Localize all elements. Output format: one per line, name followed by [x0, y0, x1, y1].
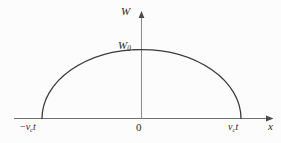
x-axis-label: x	[268, 121, 273, 132]
origin-label: 0	[136, 122, 142, 133]
figure-container: W W0 0 x −vct vct	[0, 0, 281, 143]
y-axis-label: W	[121, 6, 130, 17]
w0-base: W	[118, 39, 127, 51]
left-tick-tail: t	[33, 121, 36, 132]
left-tick-subscript: c	[30, 126, 33, 133]
x-tick-label-right: vct	[228, 122, 238, 132]
right-tick-subscript: c	[232, 126, 235, 133]
x-tick-label-left: −vct	[20, 122, 36, 132]
y-axis-arrow-icon	[139, 11, 145, 18]
w0-label: W0	[118, 40, 131, 51]
right-tick-tail: t	[235, 121, 238, 132]
w0-subscript: 0	[127, 45, 131, 53]
